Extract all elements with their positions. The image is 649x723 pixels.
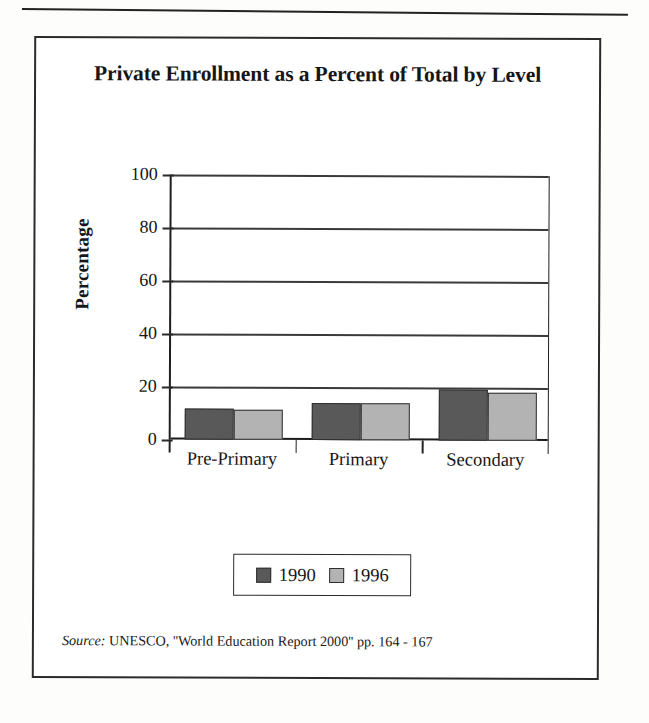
bar-1990-primary[interactable]	[312, 403, 361, 440]
legend-swatch-icon	[256, 567, 271, 582]
bar-1990-secondary[interactable]	[438, 389, 487, 441]
page-top-rule	[22, 8, 628, 16]
y-tick-label: 60	[139, 270, 157, 291]
source-note: Source: UNESCO, ''World Education Report…	[62, 632, 433, 650]
legend-swatch-icon	[329, 568, 344, 583]
y-tick-label: 40	[139, 323, 157, 344]
chart-legend: 19901996	[233, 554, 411, 597]
bar-1996-pre-primary[interactable]	[234, 409, 283, 440]
source-label: Source:	[62, 632, 106, 648]
bar-group	[297, 175, 425, 440]
document-page: Private Enrollment as a Percent of Total…	[0, 0, 649, 723]
legend-entry-1990[interactable]: 1990	[256, 564, 316, 585]
bars-layer	[171, 174, 549, 440]
legend-label: 1996	[352, 565, 389, 586]
y-tick-label: 0	[148, 429, 157, 450]
bar-group	[171, 174, 299, 439]
plot-area: 020406080100	[169, 174, 550, 440]
bar-group	[424, 175, 552, 440]
category-axis: Pre-PrimaryPrimarySecondary	[169, 439, 549, 478]
y-tick-label: 80	[139, 217, 157, 238]
bar-1996-secondary[interactable]	[487, 393, 536, 441]
plot-area-wrapper: 020406080100	[169, 174, 550, 440]
y-axis-title: Percentage	[71, 179, 94, 349]
category-label-secondary: Secondary	[422, 449, 549, 470]
legend-entry-1996[interactable]: 1996	[329, 565, 389, 586]
bar-1990-pre-primary[interactable]	[185, 408, 234, 439]
chart-title: Private Enrollment as a Percent of Total…	[74, 58, 561, 90]
legend-label: 1990	[279, 564, 316, 585]
bar-1996-primary[interactable]	[361, 404, 410, 441]
y-tick-label: 100	[131, 164, 158, 185]
figure-frame: Private Enrollment as a Percent of Total…	[32, 36, 601, 680]
category-label-primary: Primary	[295, 449, 422, 470]
category-label-pre-primary: Pre-Primary	[169, 448, 296, 469]
source-text: UNESCO, ''World Education Report 2000'' …	[105, 632, 432, 649]
y-tick-label: 20	[139, 376, 157, 397]
